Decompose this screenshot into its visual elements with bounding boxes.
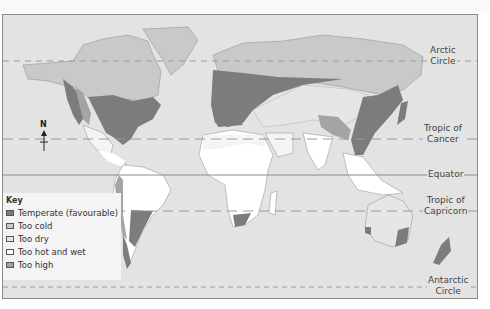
world-map: Arctic Circle Tropic of Cancer Equator T… xyxy=(2,14,478,299)
legend-item-too-dry: Too dry xyxy=(6,233,49,245)
equator-label-line1: Equator xyxy=(428,169,463,180)
legend-item-temperate: Temperate (favourable) xyxy=(6,207,118,219)
region-new-zealand xyxy=(433,237,451,265)
north-arrow-icon xyxy=(37,120,51,152)
region-central-america-wet xyxy=(98,151,125,167)
region-se-asia xyxy=(343,153,403,195)
equator-label: Equator xyxy=(427,169,464,180)
swatch-too-hot-and-wet xyxy=(6,249,14,255)
tropic-of-cancer-label: Tropic of Cancer xyxy=(423,123,463,145)
legend-label: Too high xyxy=(18,260,53,270)
legend-item-too-high: Too high xyxy=(6,259,53,271)
antarctic-label-line1: Antarctic xyxy=(428,275,468,286)
legend-label: Temperate (favourable) xyxy=(18,208,118,218)
arctic-circle-label: Arctic Circle xyxy=(429,45,457,67)
antarctic-label-line2: Circle xyxy=(428,286,468,297)
region-south-america-temperate xyxy=(129,210,153,247)
swatch-temperate xyxy=(6,210,14,216)
cancer-label-line1: Tropic of xyxy=(424,123,462,134)
capricorn-label-line1: Tropic of xyxy=(424,195,467,206)
antarctic-circle-label: Antarctic Circle xyxy=(427,275,469,297)
arctic-label-line2: Circle xyxy=(430,56,456,67)
legend-item-too-hot-and-wet: Too hot and wet xyxy=(6,246,86,258)
swatch-too-dry xyxy=(6,236,14,242)
legend-label: Too dry xyxy=(18,234,49,244)
arctic-label-line1: Arctic xyxy=(430,45,456,56)
swatch-too-high xyxy=(6,262,14,268)
cancer-label-line2: Cancer xyxy=(424,134,462,145)
tropic-of-capricorn-label: Tropic of Capricorn xyxy=(423,195,468,217)
map-legend: Key Temperate (favourable) Too cold Too … xyxy=(3,193,121,280)
legend-item-too-cold: Too cold xyxy=(6,220,52,232)
legend-label: Too hot and wet xyxy=(18,247,86,257)
region-australia-temperate-sw xyxy=(365,227,371,235)
legend-label: Too cold xyxy=(18,221,52,231)
swatch-too-cold xyxy=(6,223,14,229)
region-north-america-cold xyxy=(23,35,161,107)
north-arrow: N xyxy=(37,120,51,152)
capricorn-label-line2: Capricorn xyxy=(424,206,467,217)
legend-title: Key xyxy=(6,196,23,205)
caption-strip xyxy=(0,0,490,13)
